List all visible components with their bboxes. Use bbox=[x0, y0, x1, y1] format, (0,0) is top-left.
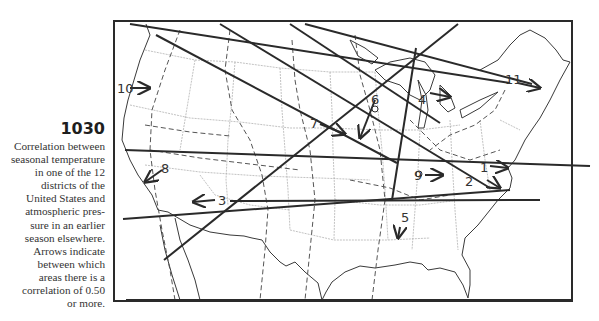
district-label-9: 9 bbox=[414, 168, 422, 183]
district-label-7: 7 bbox=[310, 116, 318, 131]
district-label-8: 8 bbox=[161, 161, 169, 176]
district-label-6: 6 bbox=[371, 92, 379, 107]
district-label-1: 1 bbox=[480, 160, 488, 175]
district-label-11: 11 bbox=[505, 72, 522, 87]
district-label-2: 2 bbox=[465, 174, 473, 189]
us-correlation-map: 10 7 6 4 11 8 3 9 1 2 5 bbox=[0, 0, 599, 321]
district-label-10: 10 bbox=[117, 81, 134, 96]
district-label-5: 5 bbox=[401, 210, 409, 225]
district-label-4: 4 bbox=[418, 92, 426, 107]
district-label-3: 3 bbox=[218, 193, 226, 208]
map-frame bbox=[114, 21, 572, 301]
